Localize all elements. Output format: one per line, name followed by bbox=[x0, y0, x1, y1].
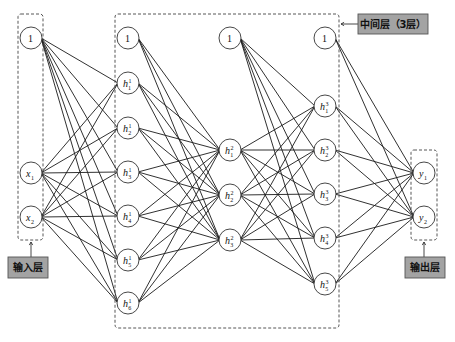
neuron-h1_4: h14 bbox=[117, 205, 139, 227]
connection-h1-bias-h2_1 bbox=[138, 38, 220, 150]
neuron-h1_6: h16 bbox=[117, 292, 139, 314]
connection-h1_3-h2_1 bbox=[138, 150, 220, 172]
figure-caption-cropped bbox=[120, 334, 340, 342]
neuron-label: 1 bbox=[28, 33, 33, 44]
neuron-h3_3: h33 bbox=[314, 183, 336, 205]
input-layer-label: 输入层 bbox=[8, 242, 48, 278]
connection-in-bias-h1_2 bbox=[41, 38, 118, 128]
neuron-h3_2: h32 bbox=[314, 139, 336, 161]
neuron-h1_2: h12 bbox=[117, 117, 139, 139]
connection-x2-h1_3 bbox=[41, 172, 118, 217]
neuron-in-bias: 1 bbox=[20, 27, 42, 49]
neuron-y1: y1 bbox=[413, 162, 435, 184]
neuron-h2_3: h23 bbox=[219, 229, 241, 251]
connection-h3_1-y1 bbox=[335, 106, 414, 173]
hidden-layer-label: 中间层（3层） bbox=[341, 14, 428, 34]
neuron-h3_4: h34 bbox=[314, 227, 336, 249]
connection-x1-h1_1 bbox=[41, 83, 118, 173]
output-layer-label: 输出层 bbox=[405, 242, 445, 278]
connection-h1_2-h2_1 bbox=[138, 128, 220, 150]
connection-h2_3-h3_3 bbox=[240, 194, 315, 240]
connection-x2-h1_5 bbox=[41, 217, 118, 260]
connection-h2_2-h3_1 bbox=[240, 106, 315, 195]
neuron-label: 1 bbox=[125, 33, 130, 44]
neuron-h2_1: h21 bbox=[219, 139, 241, 161]
connection-x2-h1_1 bbox=[41, 83, 118, 217]
input-layer-label-text: 输入层 bbox=[13, 261, 43, 273]
neuron-x2: x2 bbox=[20, 206, 42, 228]
connection-h1_6-h2_1 bbox=[138, 150, 220, 303]
neuron-y2: y2 bbox=[413, 206, 435, 228]
neuron-h3-bias: 1 bbox=[314, 27, 336, 49]
hidden-layer-label-text: 中间层（3层） bbox=[360, 18, 427, 30]
connection-in-bias-h1_3 bbox=[41, 38, 118, 172]
neuron-h2_2: h22 bbox=[219, 184, 241, 206]
output-layer-label-text: 输出层 bbox=[410, 261, 440, 273]
hidden-group bbox=[115, 14, 339, 328]
connection-h2-bias-h3_1 bbox=[240, 38, 315, 106]
neuron-x1: x1 bbox=[20, 162, 42, 184]
neuron-h1_3: h13 bbox=[117, 161, 139, 183]
neurons: 1x1x21h11h12h13h14h15h161h21h22h231h31h3… bbox=[20, 27, 435, 314]
connection-h1_2-h2_3 bbox=[138, 128, 220, 240]
neuron-h1_1: h11 bbox=[117, 72, 139, 94]
neuron-h2-bias: 1 bbox=[219, 27, 241, 49]
connection-in-bias-h1_5 bbox=[41, 38, 118, 260]
neuron-h3_1: h31 bbox=[314, 95, 336, 117]
neuron-h1-bias: 1 bbox=[117, 27, 139, 49]
neuron-label: 1 bbox=[322, 33, 327, 44]
connection-h2_1-h3_1 bbox=[240, 106, 315, 150]
connection-h2_3-h3_1 bbox=[240, 106, 315, 240]
connection-in-bias-h1_6 bbox=[41, 38, 118, 303]
neuron-h1_5: h15 bbox=[117, 249, 139, 271]
connection-x2-h1_4 bbox=[41, 216, 118, 217]
connection-in-bias-h1_4 bbox=[41, 38, 118, 216]
neuron-label: 1 bbox=[227, 33, 232, 44]
neuron-h3_5: h35 bbox=[314, 273, 336, 295]
connection-h2-bias-h3_2 bbox=[240, 38, 315, 150]
connection-h3-bias-y1 bbox=[335, 38, 414, 173]
connections bbox=[41, 38, 414, 303]
connection-x2-h1_6 bbox=[41, 217, 118, 303]
neural-network-diagram: 1x1x21h11h12h13h14h15h161h21h22h231h31h3… bbox=[0, 0, 455, 342]
